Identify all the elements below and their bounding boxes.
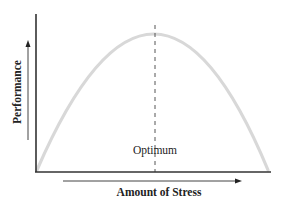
stress-performance-diagram: Optimum Amount of Stress Performance — [0, 0, 283, 203]
x-axis-label: Amount of Stress — [117, 186, 202, 198]
x-arrow-icon — [63, 179, 242, 184]
y-arrow-icon — [26, 40, 31, 140]
optimum-label: Optimum — [133, 144, 177, 157]
y-axis-label: Performance — [11, 60, 23, 124]
